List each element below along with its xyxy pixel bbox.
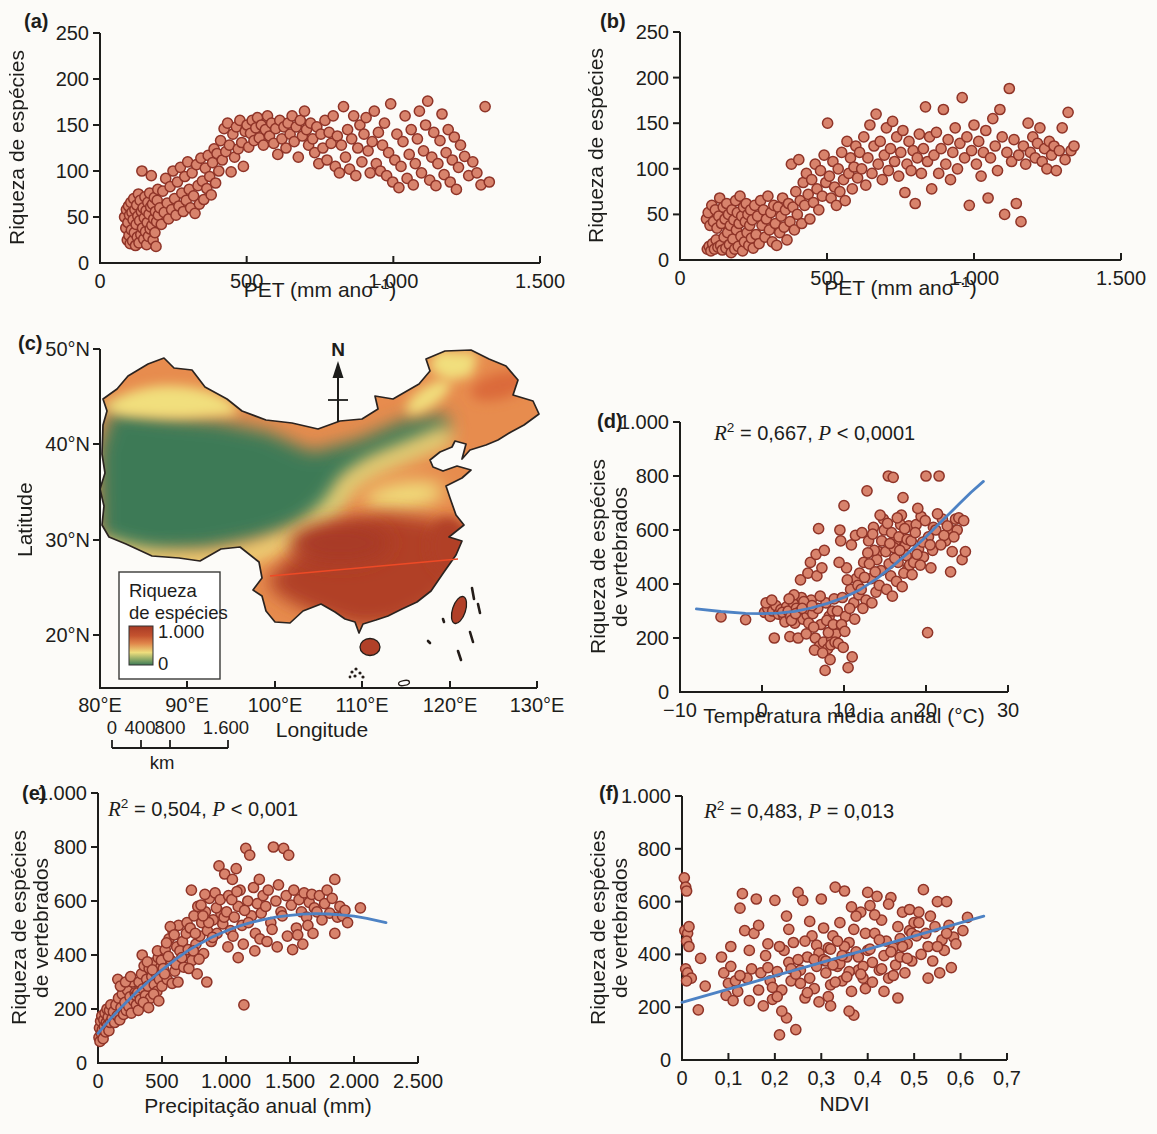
svg-text:0,4: 0,4 [854, 1067, 882, 1089]
svg-text:0: 0 [107, 717, 117, 738]
svg-text:0: 0 [676, 1067, 687, 1089]
panel-b-ylabel: Riqueza de espécies [585, 32, 607, 260]
svg-text:100: 100 [636, 158, 669, 180]
panel-b-xlabel: PET (mm ano−1) [680, 274, 1121, 300]
svg-text:250: 250 [56, 22, 89, 44]
svg-text:200: 200 [636, 627, 669, 649]
svg-text:0: 0 [158, 653, 168, 674]
svg-text:0: 0 [660, 1049, 671, 1071]
svg-text:130°E: 130°E [510, 694, 565, 716]
svg-text:1.000: 1.000 [158, 621, 204, 642]
panel-e-plot: 02004006008001.00005001.0001.5002.0002.5… [0, 768, 578, 1134]
panel-b: 05010015020025005001.0001.500 (b) Riquez… [579, 0, 1157, 315]
svg-text:0,2: 0,2 [761, 1067, 789, 1089]
svg-text:0,3: 0,3 [807, 1067, 835, 1089]
svg-text:600: 600 [54, 890, 87, 912]
panel-f-ylabel: Riqueza de espéciesde vertebrados [587, 796, 631, 1060]
legend-gradient-bar [129, 626, 153, 665]
svg-text:400: 400 [636, 573, 669, 595]
panel-e-ylabel: Riqueza de espéciesde vertebrados [8, 793, 52, 1063]
svg-text:1.600: 1.600 [203, 717, 249, 738]
svg-text:120°E: 120°E [423, 694, 478, 716]
north-arrow-icon: N [328, 339, 348, 422]
svg-text:90°E: 90°E [165, 694, 209, 716]
panel-e-stats: R2 = 0,504, P < 0,001 [108, 796, 298, 822]
panel-d-ylabel: Riqueza de espéciesde vertebrados [587, 422, 631, 692]
svg-text:Riqueza: Riqueza [129, 580, 198, 601]
svg-text:de espécies: de espécies [129, 602, 228, 623]
svg-text:50°N: 50°N [45, 338, 90, 360]
svg-text:20°N: 20°N [45, 624, 90, 646]
north-label: N [331, 339, 345, 360]
svg-text:50: 50 [647, 203, 669, 225]
svg-text:1.500: 1.500 [265, 1070, 315, 1092]
svg-text:500: 500 [145, 1070, 178, 1092]
svg-text:0,1: 0,1 [715, 1067, 743, 1089]
islet-outline [398, 680, 410, 687]
svg-text:800: 800 [638, 838, 671, 860]
map-legend: Riqueza de espécies 1.000 0 [119, 572, 228, 679]
panel-b-tag: (b) [600, 10, 626, 33]
panel-b-plot: 05010015020025005001.0001.500 [579, 0, 1157, 315]
svg-text:600: 600 [636, 519, 669, 541]
panel-d: 02004006008001.000−100102030 (d) Riqueza… [579, 390, 1157, 750]
hainan-island [360, 639, 380, 656]
panel-e-xlabel: Precipitação anual (mm) [98, 1094, 418, 1118]
svg-text:0,7: 0,7 [993, 1067, 1021, 1089]
svg-text:800: 800 [636, 465, 669, 487]
svg-text:150: 150 [636, 112, 669, 134]
svg-text:200: 200 [54, 998, 87, 1020]
svg-text:400: 400 [54, 944, 87, 966]
panel-e: 02004006008001.00005001.0001.5002.0002.5… [0, 768, 578, 1134]
china-richness-map: 50°N 40°N 30°N 20°N 80°E 90°E 100°E 110°… [0, 320, 578, 790]
panel-a-plot: 05010015020025005001.0001.500 [0, 0, 578, 315]
svg-text:0,5: 0,5 [900, 1067, 928, 1089]
svg-text:200: 200 [636, 67, 669, 89]
svg-text:2.500: 2.500 [393, 1070, 443, 1092]
svg-text:800: 800 [155, 717, 186, 738]
panel-f-stats: R2 = 0,483, P = 0,013 [704, 798, 894, 824]
svg-text:200: 200 [56, 68, 89, 90]
panel-c-ylabel: Latitude [14, 425, 36, 615]
panel-a-ylabel: Riqueza de espécies [6, 33, 28, 263]
svg-text:2.000: 2.000 [329, 1070, 379, 1092]
svg-text:40°N: 40°N [45, 433, 90, 455]
svg-text:30°N: 30°N [45, 529, 90, 551]
panel-c-tag: (c) [18, 332, 42, 355]
panel-a: 05010015020025005001.0001.500 (a) Riquez… [0, 0, 578, 315]
taiwan-island [448, 595, 469, 626]
svg-text:0,6: 0,6 [947, 1067, 975, 1089]
figure: 05010015020025005001.0001.500 (a) Riquez… [0, 0, 1157, 1134]
svg-text:1.000: 1.000 [201, 1070, 251, 1092]
svg-text:250: 250 [636, 21, 669, 43]
svg-text:400: 400 [638, 943, 671, 965]
panel-d-xlabel: Temperatura média anual (°C) [680, 704, 1008, 728]
panel-a-tag: (a) [24, 10, 48, 33]
svg-text:80°E: 80°E [78, 694, 122, 716]
panel-c: 50°N 40°N 30°N 20°N 80°E 90°E 100°E 110°… [0, 320, 578, 790]
svg-text:0: 0 [658, 249, 669, 271]
small-islands [428, 588, 480, 660]
svg-text:0: 0 [92, 1070, 103, 1092]
svg-text:100: 100 [56, 160, 89, 182]
svg-text:110°E: 110°E [335, 694, 388, 716]
svg-text:50: 50 [67, 206, 89, 228]
svg-text:150: 150 [56, 114, 89, 136]
south-sea-islets [349, 667, 365, 678]
panel-a-xlabel: PET (mm ano−1) [100, 276, 540, 302]
svg-text:200: 200 [638, 996, 671, 1018]
svg-text:100°E: 100°E [248, 694, 303, 716]
longitude-label: Longitude [276, 718, 368, 741]
map-scalebar: 0 400 800 1.600 km [107, 717, 249, 773]
svg-text:0: 0 [78, 252, 89, 274]
svg-text:0: 0 [76, 1052, 87, 1074]
panel-f-xlabel: NDVI [682, 1092, 1007, 1116]
svg-text:600: 600 [638, 891, 671, 913]
svg-text:800: 800 [54, 836, 87, 858]
panel-f: 02004006008001.00000,10,20,30,40,50,60,7… [579, 768, 1157, 1134]
panel-d-stats: R2 = 0,667, P < 0,0001 [714, 420, 915, 446]
svg-text:400: 400 [125, 717, 156, 738]
